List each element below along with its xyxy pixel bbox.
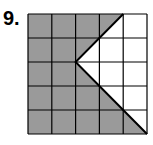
- shaded-grid-figure: [0, 0, 153, 145]
